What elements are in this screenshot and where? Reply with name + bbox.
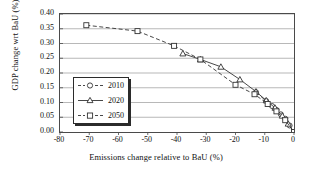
legend-item-0: 2010 <box>74 78 128 93</box>
y-tick-label: 0.15 <box>24 83 54 91</box>
legend-symbol-square-icon <box>77 108 105 123</box>
y-axis-title: GDP change wrt BaU (%) <box>10 0 20 105</box>
chart-legend: 2010 2020 2050 <box>73 77 129 124</box>
legend-label-2: 2050 <box>108 112 124 120</box>
y-tick-label: 0.10 <box>24 98 54 106</box>
legend-symbol-triangle-icon <box>77 93 105 108</box>
y-tick-label: 0.30 <box>24 39 54 47</box>
legend-label-1: 2020 <box>108 97 124 105</box>
y-tick-label: 0.40 <box>24 9 54 17</box>
y-tick-label: 0.35 <box>24 24 54 32</box>
y-tick-label: 0.25 <box>24 53 54 61</box>
legend-item-2: 2050 <box>74 108 128 123</box>
x-axis-title: Emissions change relative to BaU (%) <box>0 152 312 162</box>
legend-symbol-circle-icon <box>77 78 105 93</box>
legend-label-0: 2010 <box>108 82 124 90</box>
chart-figure: GDP change wrt BaU (%) Emissions change … <box>0 0 312 173</box>
legend-item-1: 2020 <box>74 93 128 108</box>
y-tick-label: 0.20 <box>24 68 54 76</box>
y-tick-label: 0.00 <box>24 127 54 135</box>
y-tick-label: 0.05 <box>24 112 54 120</box>
